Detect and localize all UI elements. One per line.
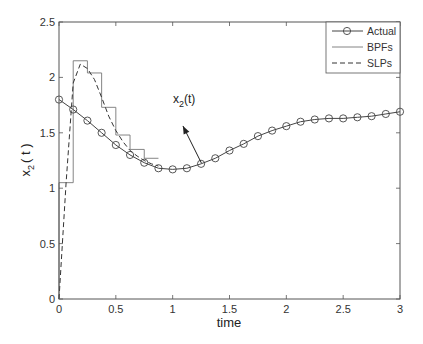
- y-tick-label: 0: [49, 293, 55, 305]
- x-tick-label: 3: [397, 303, 403, 315]
- y-axis-label-tail: ( t ): [18, 143, 33, 163]
- y-tick-label: 0.5: [40, 238, 55, 250]
- y-axis-label: x2( t ): [18, 143, 36, 176]
- x-tick-label: 0.5: [108, 303, 123, 315]
- x-tick-label: 2: [283, 303, 289, 315]
- y-tick-label: 2: [49, 71, 55, 83]
- legend-label-actual: Actual: [367, 25, 396, 37]
- legend-label-bpfs: BPFs: [367, 41, 393, 53]
- x-tick-label: 2.5: [336, 303, 351, 315]
- y-tick-label: 1: [49, 182, 55, 194]
- x-tick-label: 1.5: [222, 303, 237, 315]
- y-tick-label: 2.5: [40, 16, 55, 28]
- x-tick-label: 0: [56, 303, 62, 315]
- svg-text:x2( t ): x2( t ): [18, 143, 36, 176]
- y-axis-label-sub: 2: [26, 165, 36, 170]
- x-tick-label: 1: [170, 303, 176, 315]
- x-axis-label: time: [217, 315, 242, 330]
- legend-label-slps: SLPs: [367, 57, 392, 69]
- y-tick-label: 1.5: [40, 127, 55, 139]
- legend: Actual BPFs SLPs: [326, 22, 400, 73]
- chart: 00.511.522.5300.511.522.5 time x2( t ) x…: [0, 0, 423, 344]
